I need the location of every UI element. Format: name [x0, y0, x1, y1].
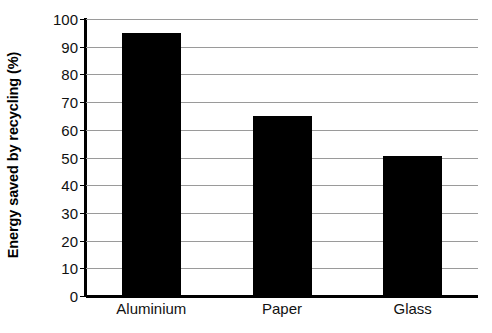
- x-axis-category-label: Glass: [393, 301, 431, 316]
- y-axis-tick-mark: [80, 268, 86, 269]
- y-axis-tick-mark: [80, 130, 86, 131]
- y-axis-tick-mark: [80, 102, 86, 103]
- plot-area: [86, 19, 478, 296]
- y-axis-tick-label: 50: [61, 150, 78, 165]
- y-axis-tick-mark: [80, 213, 86, 214]
- y-axis-tick-mark: [80, 185, 86, 186]
- bar: [383, 156, 442, 296]
- y-axis-tick-mark: [80, 296, 86, 297]
- y-axis-tick-mark: [80, 74, 86, 75]
- y-axis-title-text: Energy saved by recycling (%): [5, 52, 21, 259]
- bar: [253, 116, 312, 296]
- y-axis-tick-label: 30: [61, 205, 78, 220]
- y-axis-tick-label: 80: [61, 67, 78, 82]
- y-axis-tick-label: 90: [61, 39, 78, 54]
- bar-chart: Energy saved by recycling (%) 0102030405…: [0, 0, 492, 333]
- y-axis-tick-label: 10: [61, 261, 78, 276]
- y-axis-tick-mark: [80, 19, 86, 20]
- bar: [122, 33, 181, 296]
- x-axis-category-labels: AluminiumPaperGlass: [86, 299, 478, 323]
- x-axis-category-label: Aluminium: [116, 301, 186, 316]
- y-axis-tick-label: 0: [70, 289, 78, 304]
- y-axis-tick-mark: [80, 158, 86, 159]
- y-axis-tick-label: 40: [61, 178, 78, 193]
- y-axis-tick-label: 20: [61, 233, 78, 248]
- y-axis-title: Energy saved by recycling (%): [0, 0, 26, 310]
- y-axis-tick-label: 70: [61, 95, 78, 110]
- x-axis-category-label: Paper: [262, 301, 302, 316]
- y-axis-tick-label: 100: [53, 12, 78, 27]
- y-axis-tick-mark: [80, 47, 86, 48]
- y-axis-tick-labels: 0102030405060708090100: [26, 0, 82, 333]
- gridline: [86, 19, 478, 20]
- y-axis-tick-mark: [80, 241, 86, 242]
- y-axis-tick-label: 60: [61, 122, 78, 137]
